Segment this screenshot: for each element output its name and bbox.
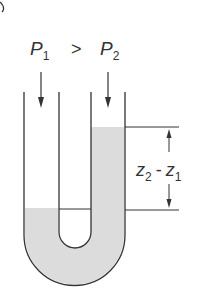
- manometer-diagram: P1 > P2 z2-z1: [0, 0, 209, 308]
- dimension-down-arrow-icon: [167, 184, 172, 208]
- height-difference-label: z2-z1: [135, 160, 182, 184]
- p2-label: P2: [100, 38, 120, 63]
- corner-label-fragment: [0, 2, 4, 12]
- tube-inner-wall: [59, 92, 91, 248]
- p2-arrow-icon: [105, 72, 111, 108]
- p1-label: P1: [30, 38, 50, 63]
- dimension-up-arrow-icon: [167, 129, 172, 152]
- manometer-fluid: [25, 127, 124, 285]
- p1-arrow-icon: [38, 72, 44, 108]
- relation-label: >: [71, 39, 82, 59]
